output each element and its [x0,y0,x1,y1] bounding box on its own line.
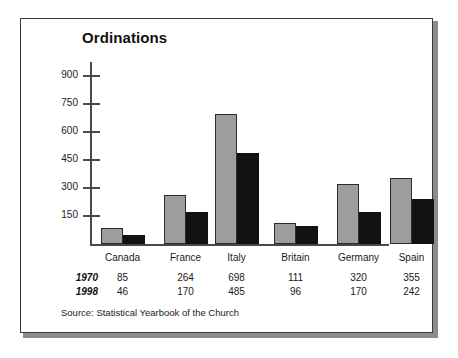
y-tick-label: 450 [46,154,78,164]
y-tick-900 [83,75,100,77]
y-tick-450 [83,159,100,161]
bar-spain-1998 [412,199,434,244]
y-tick-150 [83,215,100,217]
y-tick-label: 600 [46,126,78,136]
y-tick-label: 900 [46,70,78,80]
bar-italy-1970 [215,114,237,244]
y-axis-line [90,62,92,246]
y-tick-750 [83,103,100,105]
bar-canada-1970 [101,228,123,244]
bar-france-1970 [164,195,186,244]
y-tick-label: 150 [46,210,78,220]
category-label-spain: Spain [372,252,452,263]
bar-canada-1998 [123,235,145,244]
source-note: Source: Statistical Yearbook of the Chur… [61,307,239,318]
bar-germany-1998 [359,212,381,244]
plot-area: 150300450600750900 CanadaFranceItalyBrit… [0,0,458,358]
y-tick-600 [83,131,100,133]
y-tick-300 [83,187,100,189]
bar-germany-1970 [337,184,359,244]
x-axis-line [90,244,389,246]
bar-spain-1970 [390,178,412,244]
table-cell: 355 [372,272,452,283]
y-tick-label: 750 [46,98,78,108]
bar-britain-1970 [274,223,296,244]
bar-france-1998 [186,212,208,244]
table-cell: 242 [372,286,452,297]
bar-britain-1998 [296,226,318,244]
y-tick-label: 300 [46,182,78,192]
bar-italy-1998 [237,153,259,244]
chart-figure: Ordinations 150300450600750900 CanadaFra… [0,0,458,358]
